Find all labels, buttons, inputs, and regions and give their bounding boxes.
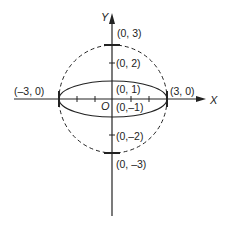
- point-label-0-m1: (0,–1): [116, 102, 143, 113]
- point-label-0-3: (0, 3): [117, 28, 142, 39]
- point-label-0-m3: (0, –3): [116, 159, 146, 170]
- point-label-0-2: (0, 2): [116, 58, 141, 69]
- diagram-canvas: [0, 0, 228, 226]
- origin-label: O: [101, 101, 110, 112]
- point-label-m3-0: (–3, 0): [14, 86, 44, 97]
- y-axis-arrow-icon: [109, 13, 115, 24]
- point-label-0-m2: (0,–2): [116, 131, 143, 142]
- y-axis-label: Y: [101, 12, 108, 23]
- point-label-0-1: (0, 1): [116, 84, 141, 95]
- x-axis-arrow-icon: [196, 96, 206, 102]
- ellipse-circle-diagram: Y X O (0, 3) (0, 2) (0, 1) (0,–1) (0,–2)…: [0, 0, 228, 226]
- x-axis-label: X: [210, 95, 217, 106]
- point-label-3-0: (3, 0): [170, 86, 195, 97]
